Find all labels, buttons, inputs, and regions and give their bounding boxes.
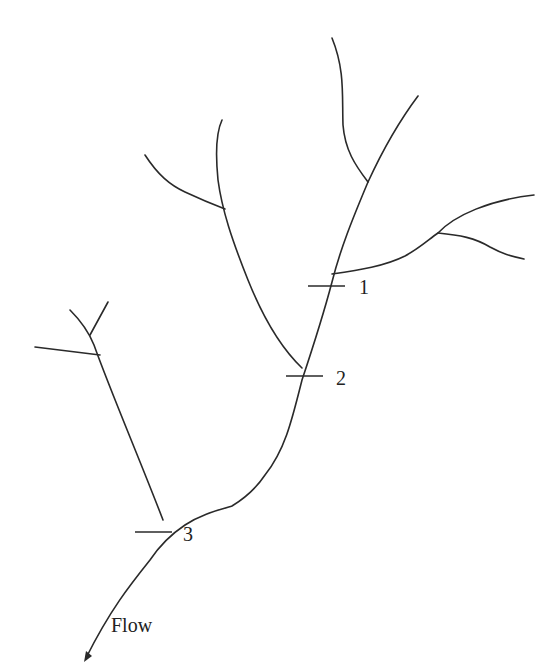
station-1-label: 1	[359, 276, 369, 298]
tributary-lower-left-branch-a	[90, 302, 108, 335]
tributary-middle-branch	[145, 155, 225, 209]
main-channel	[86, 96, 418, 658]
tributary-right-fork	[438, 233, 524, 259]
stream-network-diagram: 1 2 3 Flow	[0, 0, 556, 669]
tributary-middle	[217, 120, 302, 368]
tributary-lower-left-branch-b	[35, 347, 100, 355]
flow-label: Flow	[111, 614, 153, 636]
headwater-upper-left	[332, 38, 368, 182]
tributary-right	[332, 195, 534, 274]
station-3-label: 3	[183, 523, 193, 545]
station-2-label: 2	[336, 367, 346, 389]
tributary-lower-left	[70, 310, 163, 520]
